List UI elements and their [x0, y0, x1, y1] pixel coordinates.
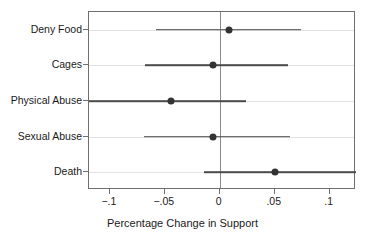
point-estimate-marker	[210, 62, 217, 69]
y-axis-tick	[83, 136, 88, 137]
x-axis-tick	[219, 189, 220, 194]
x-axis-tick	[164, 189, 165, 194]
confidence-interval-bar	[144, 136, 290, 138]
point-estimate-marker	[210, 133, 217, 140]
y-axis-label: Sexual Abuse	[0, 130, 82, 141]
point-estimate-marker	[225, 26, 232, 33]
point-estimate-marker	[168, 98, 175, 105]
coefficient-plot: Deny FoodCagesPhysical AbuseSexual Abuse…	[0, 0, 365, 239]
y-axis-label: Death	[0, 166, 82, 177]
y-axis-label: Cages	[0, 59, 82, 70]
x-axis-tick-label: −.1	[101, 196, 116, 207]
plot-area	[88, 11, 355, 189]
x-axis-tick	[329, 189, 330, 194]
confidence-interval-bar	[204, 171, 356, 173]
y-axis-tick	[83, 171, 88, 172]
x-axis-tick-label: .1	[324, 196, 333, 207]
point-estimate-marker	[271, 169, 278, 176]
y-axis-label: Deny Food	[0, 24, 82, 35]
x-axis-tick-label: 0	[216, 196, 222, 207]
y-axis-tick	[83, 100, 88, 101]
x-axis-tick	[109, 189, 110, 194]
y-axis-tick	[83, 29, 88, 30]
x-axis-tick	[274, 189, 275, 194]
y-axis-tick	[83, 64, 88, 65]
x-axis-title: Percentage Change in Support	[0, 218, 365, 229]
x-axis-tick-label: −.05	[153, 196, 174, 207]
x-axis-tick-label: .05	[266, 196, 281, 207]
y-axis-label: Physical Abuse	[0, 95, 82, 106]
